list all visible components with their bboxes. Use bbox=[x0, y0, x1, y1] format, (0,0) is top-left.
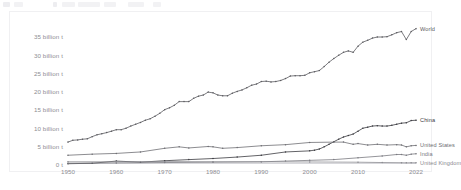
y-axis-tick-label: 35 billion t bbox=[34, 33, 63, 40]
series-line-world[interactable] bbox=[68, 29, 416, 142]
y-axis-tick-label: 20 billion t bbox=[34, 88, 63, 95]
chart-card: 0 t5 billion t10 billion t15 billion t20… bbox=[9, 11, 432, 172]
series-line-united-states[interactable] bbox=[68, 142, 416, 155]
series-label-united-kingdom[interactable]: United Kingdom bbox=[420, 160, 461, 166]
y-axis-tick-label: 10 billion t bbox=[34, 124, 63, 131]
y-axis-tick-label: 0 t bbox=[56, 161, 63, 168]
x-axis-tick-label: 2000 bbox=[303, 168, 317, 175]
toolbar-chip-5[interactable] bbox=[78, 2, 100, 7]
toolbar-chip-8[interactable] bbox=[153, 2, 161, 7]
series-label-china[interactable]: China bbox=[420, 117, 435, 123]
y-axis-tick-label: 30 billion t bbox=[34, 51, 63, 58]
toolbar-chip-4[interactable] bbox=[62, 2, 75, 7]
series-label-world[interactable]: World bbox=[420, 26, 435, 32]
toolbar-chip-7[interactable] bbox=[128, 2, 144, 7]
y-axis-tick-label: 5 billion t bbox=[37, 142, 63, 149]
toolbar-chip-2[interactable] bbox=[14, 2, 23, 7]
y-axis-tick-label: 25 billion t bbox=[34, 69, 63, 76]
series-markers-world bbox=[67, 28, 417, 143]
x-axis-tick-label: 1950 bbox=[61, 168, 75, 175]
chart-plot-area: 0 t5 billion t10 billion t15 billion t20… bbox=[68, 29, 416, 164]
x-axis-tick-label: 1960 bbox=[109, 168, 123, 175]
series-label-united-states[interactable]: United States bbox=[420, 142, 455, 148]
chart-svg bbox=[68, 29, 416, 164]
toolbar-chip-3[interactable] bbox=[53, 2, 57, 7]
browser-toolbar bbox=[0, 0, 447, 9]
x-axis-tick-label: 2010 bbox=[351, 168, 365, 175]
x-axis-tick-label: 1980 bbox=[206, 168, 220, 175]
toolbar-chip-6[interactable] bbox=[104, 2, 116, 7]
x-axis-tick-label: 2022 bbox=[409, 168, 423, 175]
toolbar-chip-1[interactable] bbox=[3, 2, 10, 7]
series-markers-united-states bbox=[67, 141, 417, 156]
y-axis-tick-label: 15 billion t bbox=[34, 106, 63, 113]
x-axis-tick-label: 1990 bbox=[254, 168, 268, 175]
x-axis-tick-label: 1970 bbox=[158, 168, 172, 175]
series-label-india[interactable]: India bbox=[420, 151, 433, 157]
